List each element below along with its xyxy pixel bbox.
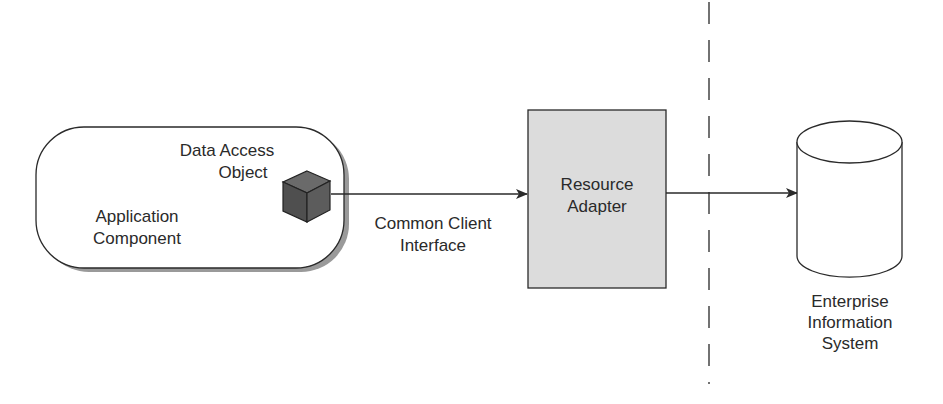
- eis-label-line1: Enterprise: [790, 291, 910, 312]
- app-label-line2: Component: [78, 228, 196, 250]
- eis-label-line3: System: [790, 333, 910, 354]
- application-component-label: Application Component: [78, 206, 196, 250]
- cci-label-line1: Common Client: [358, 213, 508, 235]
- dao-label-line1: Data Access: [172, 140, 282, 162]
- data-access-object-label: Data Access Object: [172, 140, 282, 184]
- common-client-interface-label: Common Client Interface: [358, 213, 508, 257]
- dao-label-line2: Object: [172, 162, 282, 184]
- app-label-line1: Application: [78, 206, 196, 228]
- cube-icon: [283, 171, 330, 222]
- ra-label-line1: Resource: [528, 174, 666, 196]
- ra-label-line2: Adapter: [528, 196, 666, 218]
- database-cylinder-icon: [797, 121, 902, 277]
- eis-label-line2: Information: [790, 312, 910, 333]
- cci-label-line2: Interface: [358, 235, 508, 257]
- eis-label: Enterprise Information System: [790, 291, 910, 354]
- resource-adapter-label: Resource Adapter: [528, 174, 666, 218]
